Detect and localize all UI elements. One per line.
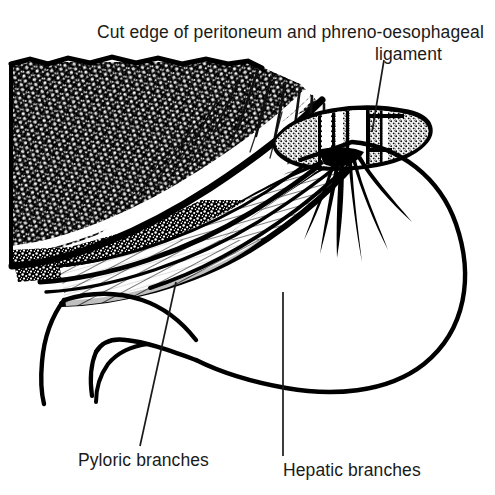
caption-line-1: Cut edge of peritoneum and phreno-oesoph… [97, 22, 484, 43]
caption-line-2: ligament [375, 44, 442, 65]
label-pyloric-branches: Pyloric branches [78, 450, 209, 471]
illustration-canvas [0, 0, 495, 495]
anatomical-figure: Cut edge of peritoneum and phreno-oesoph… [0, 0, 495, 495]
label-hepatic-branches: Hepatic branches [283, 460, 421, 481]
